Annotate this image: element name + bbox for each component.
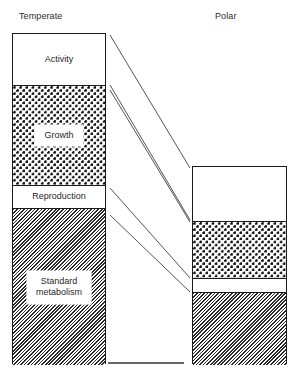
band-temperate-activity: Activity xyxy=(13,34,105,85)
band-polar-activity xyxy=(193,167,286,221)
band-polar-growth xyxy=(193,221,286,278)
connector-growth-reproduction xyxy=(110,90,190,222)
band-label-reproduction: Reproduction xyxy=(32,191,86,203)
connector-reproduction-metabolism xyxy=(110,188,190,278)
band-temperate-standard-metabolism: Standard metabolism xyxy=(13,208,105,365)
band-label-activity: Activity xyxy=(45,54,74,66)
bar-column-polar xyxy=(192,166,287,364)
energy-budget-diagram: Temperate Polar Activity Growth Reproduc… xyxy=(0,0,296,378)
band-temperate-growth: Growth xyxy=(13,85,105,185)
connector-activity-top xyxy=(110,35,190,168)
column-header-temperate: Temperate xyxy=(19,11,62,21)
band-polar-reproduction xyxy=(193,278,286,292)
band-label-standard-metabolism: Standard metabolism xyxy=(27,271,91,304)
band-polar-standard-metabolism xyxy=(193,292,286,365)
band-temperate-reproduction: Reproduction xyxy=(13,185,105,208)
bar-column-temperate: Activity Growth Reproduction Standard me… xyxy=(12,33,106,364)
column-header-polar: Polar xyxy=(215,11,237,21)
connector-metabolism-top xyxy=(110,215,190,292)
connector-activity-growth xyxy=(110,85,190,220)
band-label-growth: Growth xyxy=(35,125,82,147)
